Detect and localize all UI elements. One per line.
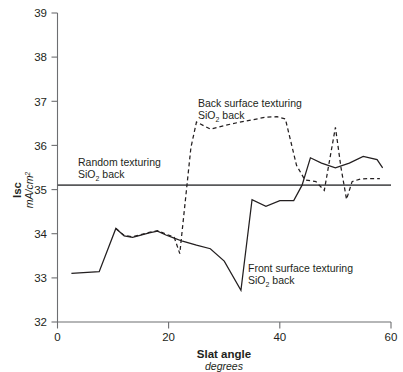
y-tick-label-32: 32 — [34, 316, 47, 328]
y-axis: 39 38 37 36 35 34 33 32 — [34, 7, 57, 328]
y-axis-title-group: Isc — [11, 181, 23, 198]
y-tick-label-33: 33 — [34, 272, 47, 284]
x-tick-label-40: 40 — [273, 331, 286, 343]
x-axis: 0 20 40 60 — [54, 322, 397, 343]
line-chart: 39 38 37 36 35 34 33 32 0 20 40 60 Slat … — [0, 0, 403, 372]
x-tick-label-20: 20 — [162, 331, 175, 343]
x-axis-title: Slat angle — [197, 348, 251, 360]
y-tick-label-39: 39 — [34, 7, 47, 19]
annotation-random-texturing-line2: SiO2 back — [78, 168, 125, 182]
y-tick-label-37: 37 — [34, 96, 47, 108]
y-tick-label-36: 36 — [34, 140, 47, 152]
annotation-front-surface-texturing: Front surface texturing SiO2 back — [248, 262, 353, 288]
annotation-random-texturing: Random texturing SiO2 back — [78, 156, 161, 182]
annotation-front-surface-texturing-line2: SiO2 back — [248, 274, 295, 288]
y-axis-title: Isc — [11, 181, 23, 198]
y-tick-label-38: 38 — [34, 51, 47, 63]
chart-figure: 39 38 37 36 35 34 33 32 0 20 40 60 Slat … — [0, 0, 403, 372]
y-tick-label-34: 34 — [34, 228, 47, 240]
x-tick-label-60: 60 — [385, 331, 398, 343]
x-axis-units: degrees — [205, 360, 244, 372]
y-axis-units: mA/cm2 — [23, 172, 35, 209]
annotation-back-surface-texturing-line2: SiO2 back — [198, 109, 245, 123]
y-tick-label-35: 35 — [34, 184, 47, 196]
annotation-front-surface-texturing-line1: Front surface texturing — [248, 262, 353, 274]
x-tick-label-0: 0 — [54, 331, 60, 343]
y-axis-units-group: mA/cm2 — [23, 172, 35, 209]
annotation-random-texturing-line1: Random texturing — [78, 156, 161, 168]
annotation-back-surface-texturing-line1: Back surface texturing — [198, 97, 302, 109]
annotation-back-surface-texturing: Back surface texturing SiO2 back — [198, 97, 302, 123]
